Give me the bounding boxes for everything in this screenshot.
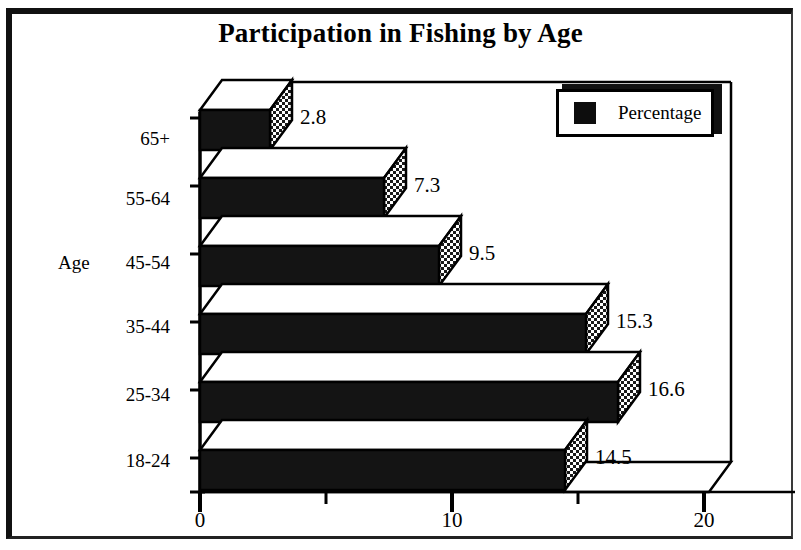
y-tick-label-35-44: 35-44 — [60, 316, 170, 338]
y-tick-label-55-64: 55-64 — [60, 188, 170, 210]
bar-label-65plus: 2.8 — [300, 105, 326, 130]
bar-label-55-64: 7.3 — [414, 173, 440, 198]
bar-label-25-34: 16.6 — [648, 377, 685, 402]
y-tick-label-18-24: 18-24 — [60, 450, 170, 472]
bar-65plus — [200, 80, 292, 150]
bar-55-64 — [200, 148, 406, 218]
bar-25-34 — [200, 352, 640, 422]
x-tick-label-10: 10 — [422, 508, 482, 533]
y-axis-title: Age — [58, 252, 90, 274]
bar-label-18-24: 14.5 — [595, 445, 632, 470]
y-tick-label-65plus: 65+ — [60, 128, 170, 150]
bar-45-54 — [200, 216, 461, 286]
legend-label-percentage: Percentage — [618, 102, 701, 124]
bar-35-44 — [200, 284, 608, 354]
chart-legend: Percentage — [556, 89, 714, 137]
x-tick-label-0: 0 — [170, 508, 230, 533]
y-tick-label-25-34: 25-34 — [60, 384, 170, 406]
chart-figure: Participation in Fishing by Age — [0, 0, 801, 550]
bar-label-45-54: 9.5 — [469, 241, 495, 266]
bar-18-24 — [200, 420, 587, 490]
legend-swatch-percentage — [574, 102, 596, 124]
x-tick-label-20: 20 — [674, 508, 734, 533]
bar-label-35-44: 15.3 — [616, 309, 653, 334]
